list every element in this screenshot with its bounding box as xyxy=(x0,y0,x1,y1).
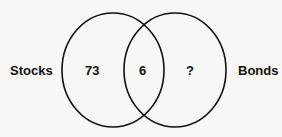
intersection-value: 6 xyxy=(139,64,146,77)
bonds-label: Bonds xyxy=(238,64,278,77)
stocks-label: Stocks xyxy=(10,64,53,77)
bonds-only-value: ? xyxy=(186,64,194,77)
stocks-only-value: 73 xyxy=(85,64,99,77)
stocks-circle xyxy=(62,13,164,127)
